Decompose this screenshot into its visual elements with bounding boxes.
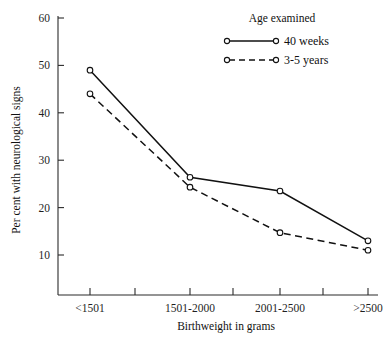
y-tick-label: 20 <box>39 202 51 214</box>
y-axis-title: Per cent with neurological signs <box>10 86 23 234</box>
x-axis-tick-labels: <15011501-20002001-2500>2500 <box>75 302 383 314</box>
legend-title: Age examined <box>249 12 316 25</box>
x-tick-label: 2001-2500 <box>255 302 305 314</box>
data-point-marker[interactable] <box>187 184 193 190</box>
legend-marker-end-icon <box>273 38 278 43</box>
y-tick-label: 50 <box>39 59 51 71</box>
y-tick-label: 30 <box>39 154 51 166</box>
data-point-marker[interactable] <box>365 238 371 244</box>
legend-entry-40-weeks[interactable]: 40 weeks <box>224 34 329 48</box>
legend-marker-start-icon <box>224 38 229 43</box>
legend-marker-end-icon <box>273 57 278 62</box>
series-line-solid <box>90 70 368 241</box>
x-tick-label: >2500 <box>353 302 383 314</box>
y-tick-label: 60 <box>39 12 51 24</box>
y-tick-label: 10 <box>39 249 51 261</box>
data-point-marker[interactable] <box>365 247 371 253</box>
legend-marker-start-icon <box>224 57 229 62</box>
x-tick-label: <1501 <box>75 302 105 314</box>
x-axis-ticks <box>90 288 368 295</box>
x-axis-title: Birthweight in grams <box>177 320 275 333</box>
data-point-marker[interactable] <box>187 174 193 180</box>
x-tick-label: 1501-2000 <box>165 302 215 314</box>
series-layer <box>87 67 371 253</box>
legend: Age examined 40 weeks 3-5 years <box>224 12 329 67</box>
line-chart: 605040302010 <15011501-20002001-2500>250… <box>0 0 392 340</box>
series-2 <box>87 91 371 253</box>
data-point-marker[interactable] <box>277 230 283 236</box>
series-line-dashed <box>90 94 368 250</box>
legend-label-3-5-years: 3-5 years <box>284 53 329 67</box>
series-1 <box>87 67 371 243</box>
data-point-marker[interactable] <box>87 67 93 73</box>
chart-container: 605040302010 <15011501-20002001-2500>250… <box>0 0 392 340</box>
y-tick-label: 40 <box>39 107 51 119</box>
y-axis-ticks: 605040302010 <box>39 12 65 261</box>
data-point-marker[interactable] <box>87 91 93 97</box>
data-point-marker[interactable] <box>277 188 283 194</box>
legend-entry-3-5-years[interactable]: 3-5 years <box>224 53 328 67</box>
legend-label-40-weeks: 40 weeks <box>284 34 329 48</box>
